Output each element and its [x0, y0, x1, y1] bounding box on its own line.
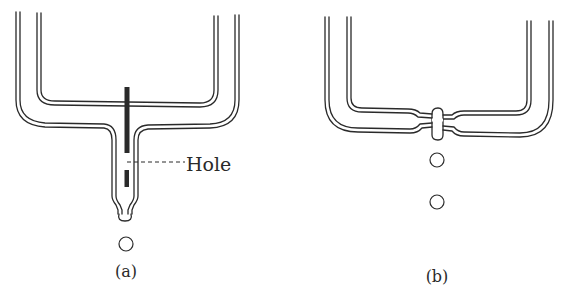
- panel-a: Hole (a): [16, 12, 239, 281]
- rod-lower-segment: [125, 170, 130, 187]
- droplet-b1: [430, 153, 444, 167]
- caption-a: (a): [115, 262, 137, 281]
- panel-b: (b): [325, 17, 553, 286]
- hole-label: Hole: [186, 153, 231, 175]
- junction-bulge: [432, 108, 443, 140]
- central-rod: [125, 87, 130, 153]
- inner-tube-b: [347, 17, 531, 119]
- figure-canvas: Hole (a) (b): [0, 0, 564, 292]
- droplet-b2: [430, 195, 444, 209]
- caption-b: (b): [426, 267, 449, 286]
- nozzle-tip: [119, 214, 132, 221]
- droplet-a: [119, 237, 133, 251]
